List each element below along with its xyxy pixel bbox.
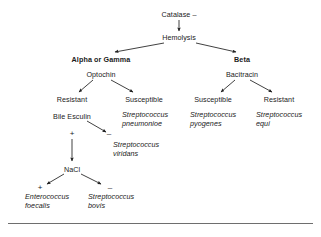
node-enterococcus-faecalis: Enterococcus foecalis	[25, 192, 69, 210]
label-nacl-positive: +	[38, 184, 43, 192]
flowchart-canvas: Catalase – Hemolysis Alpha or Gamma Beta…	[0, 0, 321, 237]
node-optochin-resistant: Resistant	[57, 95, 87, 104]
node-bacitracin-resistant: Resistant	[264, 95, 294, 104]
node-catalase: Catalase –	[162, 10, 197, 19]
node-streptococcus-pyogenes: Streptococcus pyogenes	[190, 110, 236, 128]
label-bile-esculin-positive: +	[70, 130, 75, 138]
node-beta: Beta	[234, 55, 250, 64]
node-optochin-susceptible: Susceptible	[125, 95, 163, 104]
label-bile-esculin-negative: –	[107, 130, 112, 138]
edge-nacl-to-enterococcus	[47, 174, 64, 184]
footer-divider	[8, 223, 313, 224]
edge-bacitracin-to-susceptible	[221, 80, 235, 92]
node-alpha-or-gamma: Alpha or Gamma	[72, 55, 131, 64]
node-streptococcus-pneumoniae: Streptococcus pneumonioe	[122, 110, 168, 128]
node-bacitracin: Bacitracin	[226, 70, 258, 79]
edge-nacl-to-bovis	[81, 174, 101, 184]
node-hemolysis: Hemolysis	[162, 33, 196, 42]
edge-optochin-to-susceptible	[111, 80, 133, 92]
edge-hemolysis-to-beta	[196, 43, 236, 52]
node-bacitracin-susceptible: Susceptible	[194, 95, 232, 104]
node-optochin: Optochin	[86, 70, 115, 79]
node-bile-esculin: Bile Esculin	[53, 112, 91, 121]
node-streptococcus-bovis: Streptococcus bovis	[88, 192, 134, 210]
node-streptococcus-viridans: Streptococcus viridans	[113, 140, 159, 158]
node-streptococcus-equi: Streptococcus equi	[256, 110, 302, 128]
edge-bile-esculin-to-viridans	[87, 121, 106, 132]
label-nacl-negative: –	[108, 184, 113, 192]
edge-optochin-to-resistant	[79, 80, 93, 92]
node-nacl: NaCl	[64, 165, 80, 174]
edge-bacitracin-to-resistant	[250, 80, 272, 92]
edge-hemolysis-to-alpha-gamma	[115, 43, 164, 52]
